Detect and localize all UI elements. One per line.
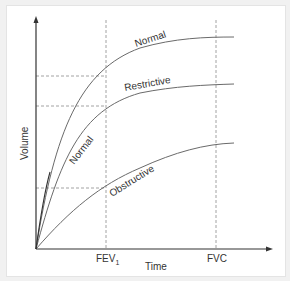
fev1-label: FEV1 bbox=[96, 253, 119, 266]
restrictive-annotation: Restrictive bbox=[123, 74, 171, 93]
x-axis-arrow-icon bbox=[266, 247, 273, 252]
obstructive-curve bbox=[36, 143, 234, 249]
restrictive-curve bbox=[36, 84, 234, 249]
y-axis-label: Volume bbox=[19, 126, 30, 160]
x-axis-label: Time bbox=[145, 261, 167, 272]
y-axis-arrow-icon bbox=[34, 16, 39, 23]
fvc-label: FVC bbox=[207, 253, 227, 264]
axes bbox=[36, 22, 268, 249]
curves bbox=[36, 37, 234, 249]
spirometry-chart: Volume Time FEV1 FVC Normal Restrictive … bbox=[0, 0, 290, 281]
normal-top-annotation: Normal bbox=[133, 28, 167, 48]
